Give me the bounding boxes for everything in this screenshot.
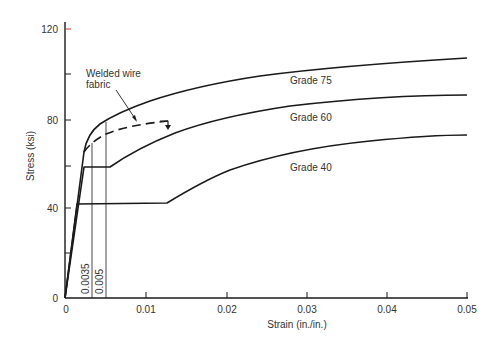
ref-label-0.005: 0.005 [94,269,105,294]
wwf-end-arrowhead [165,125,171,130]
y-tick-label-120: 120 [41,24,58,35]
x-tick-label-0.03: 0.03 [297,304,317,315]
x-tick-label-0.01: 0.01 [136,304,156,315]
x-tick-label-0.05: 0.05 [457,304,477,315]
curve-grade-60 [65,95,467,298]
x-tick-label-0.02: 0.02 [217,304,237,315]
label-grade-60: Grade 60 [290,112,332,123]
x-tick-label-0: 0 [63,304,69,315]
y-tick-label-40: 40 [47,203,59,214]
ref-label-0.0035: 0.0035 [80,263,91,294]
y-tick-label-80: 80 [47,115,59,126]
label-welded-wire-line1: Welded wire [86,68,141,79]
wwf-leader-line [116,90,136,120]
y-axis-label: Stress (ksi) [25,131,36,181]
curves [65,58,467,298]
x-tick-label-0.04: 0.04 [377,304,397,315]
x-axis-label: Strain (in./in.) [267,319,326,330]
wwf-leader-arrowhead [132,115,137,122]
stress-strain-chart: 120 80 40 0 0 0.01 0.02 0.03 0.04 0.05 S… [0,0,497,341]
label-welded-wire-line2: fabric [86,79,110,90]
label-grade-75: Grade 75 [290,75,332,86]
curve-grade-40 [65,135,467,298]
y-tick-label-0: 0 [52,293,58,304]
curve-grade-75 [65,58,467,298]
axes [65,22,468,298]
label-grade-40: Grade 40 [290,162,332,173]
curve-welded-wire-fabric [84,121,168,152]
